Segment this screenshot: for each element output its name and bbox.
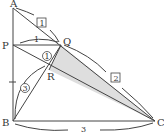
segment-pc: [13, 45, 155, 121]
label-r: R: [47, 71, 55, 82]
geometry-diagram: A P Q R B C 1 3 1 2 1 3: [0, 0, 164, 138]
brace-aq-start: [16, 8, 34, 15]
shaded-triangle-qrc: [49, 45, 155, 121]
label-p: P: [2, 40, 9, 51]
segment-bq: [13, 45, 61, 121]
length-bc: 3: [81, 125, 86, 134]
segment-ac: [13, 8, 155, 121]
label-a: A: [9, 0, 18, 9]
circle-1-label: 1: [45, 52, 50, 61]
diagram-canvas: A P Q R B C 1 3 1 2 1 3: [0, 0, 164, 138]
brace-bc-left: [15, 124, 68, 130]
label-q: Q: [63, 36, 71, 47]
circle-3-label: 3: [23, 84, 28, 93]
label-c: C: [157, 117, 164, 128]
box-1-label: 1: [40, 19, 45, 28]
brace-bc-right: [100, 123, 153, 130]
label-b: B: [2, 117, 9, 128]
box-2-label: 2: [114, 74, 119, 83]
length-pq: 1: [34, 35, 39, 44]
